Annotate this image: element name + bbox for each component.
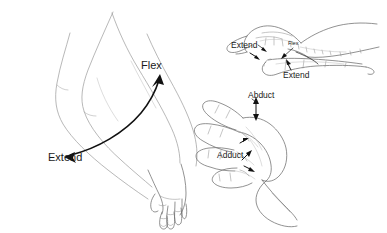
figure-linework xyxy=(0,0,387,233)
anatomy-figure: Flex Extend Extend Flex Extend Abduct Ad… xyxy=(0,0,387,233)
label-extend-upper-hand: Extend xyxy=(231,41,257,50)
label-flex-arm: Flex xyxy=(141,60,162,71)
label-flex-hand: Flex xyxy=(288,41,298,47)
left-hand-drawing xyxy=(148,164,187,229)
wrist-flexion-extension-arrow xyxy=(64,74,164,163)
label-adduct: Adduct xyxy=(217,151,243,160)
hand-palmar-drawing xyxy=(194,101,297,227)
forearm-outline xyxy=(56,12,197,199)
label-abduct: Abduct xyxy=(248,91,274,100)
label-extend-lower-hand: Extend xyxy=(283,71,309,80)
label-extend-arm: Extend xyxy=(48,152,82,163)
